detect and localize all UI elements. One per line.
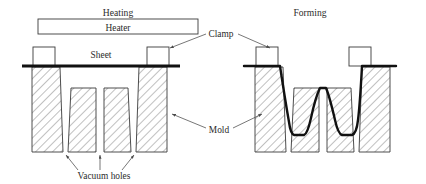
heating-stage-group bbox=[22, 19, 198, 152]
forming-title: Forming bbox=[293, 7, 326, 18]
sheet-label: Sheet bbox=[91, 50, 112, 60]
forming-stage-group bbox=[244, 47, 396, 152]
heating-title: Heating bbox=[103, 7, 134, 18]
clamp-label: Clamp bbox=[209, 29, 234, 39]
leader-vacuum-1 bbox=[66, 155, 78, 170]
leader-vacuum-3 bbox=[122, 155, 134, 170]
diagram-canvas: Heating Forming Heater Sheet Clamp Mold … bbox=[0, 0, 426, 184]
heater-label: Heater bbox=[106, 23, 132, 33]
forming-mold-block-3 bbox=[327, 88, 354, 152]
heating-mold-block-2 bbox=[68, 88, 96, 152]
forming-mold-block-2 bbox=[291, 88, 319, 152]
clamp-right-heating bbox=[147, 47, 169, 66]
vacuum-holes-label: Vacuum holes bbox=[78, 171, 131, 181]
leader-clamp-left bbox=[170, 34, 206, 48]
leader-mold-left bbox=[172, 114, 206, 128]
clamp-left-forming bbox=[256, 47, 278, 66]
thermoforming-figure: Heating Forming Heater Sheet Clamp Mold … bbox=[0, 0, 426, 184]
clamp-left-heating bbox=[33, 47, 55, 66]
forming-mold-block-4 bbox=[359, 67, 390, 152]
heating-mold-block-3 bbox=[104, 88, 131, 152]
leader-clamp-right bbox=[238, 34, 270, 48]
mold-label: Mold bbox=[209, 125, 230, 135]
heating-mold-block-1 bbox=[32, 67, 63, 152]
heating-mold-block-4 bbox=[136, 67, 167, 152]
clamp-right-forming bbox=[349, 47, 371, 66]
